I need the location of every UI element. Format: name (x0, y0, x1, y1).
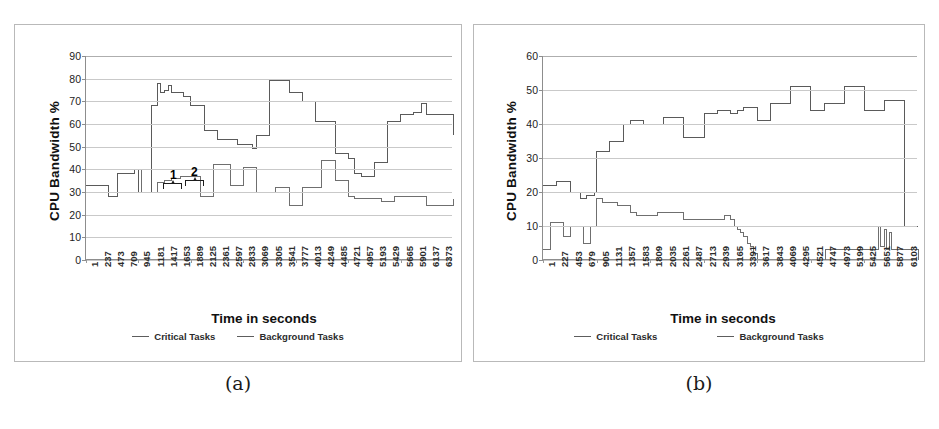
chart-panel-b: CPU Bandwidth % 6050403020100 1227453679… (473, 24, 925, 362)
legend-line-icon (237, 336, 254, 337)
x-tick-label: 6373 (443, 246, 454, 267)
x-tick-label: 2939 (720, 246, 731, 267)
x-tick-label: 237 (102, 251, 113, 267)
x-axis-title-a: Time in seconds (41, 311, 487, 326)
x-tick-label: 5199 (854, 246, 865, 267)
y-tick-mark (82, 192, 86, 193)
x-tick-label: 227 (559, 251, 570, 267)
gridline (86, 56, 452, 57)
gridline (543, 226, 917, 227)
y-tick-mark (82, 147, 86, 148)
gridline (543, 56, 917, 57)
x-tick-label: 1357 (626, 246, 637, 267)
legend-line-icon (574, 336, 591, 337)
x-tick-label: 2035 (667, 246, 678, 267)
legend-item-background-tasks-a: Background Tasks (237, 331, 343, 342)
annotation-brace-2 (185, 180, 204, 186)
x-tick-label: 2361 (220, 246, 231, 267)
y-tick-mark (539, 192, 543, 193)
legend-label-critical-tasks-a: Critical Tasks (154, 331, 215, 342)
legend-b: Critical Tasks Background Tasks (474, 331, 924, 342)
y-tick-mark (82, 101, 86, 102)
x-tick-label: 2261 (680, 246, 691, 267)
x-tick-label: 4013 (312, 246, 323, 267)
y-tick-mark (82, 169, 86, 170)
y-tick-label: 0 (532, 255, 538, 266)
gridline (86, 124, 452, 125)
plot-area-a: CPU Bandwidth % 9080706050403020100 1237… (15, 25, 461, 361)
y-tick-label: 60 (526, 51, 538, 62)
figure-two-panel-cpu-bandwidth: CPU Bandwidth % 9080706050403020100 1237… (0, 0, 939, 429)
gridline (86, 79, 452, 80)
legend-line-icon (132, 336, 149, 337)
series-lines-a (86, 56, 453, 260)
x-tick-label: 1809 (653, 246, 664, 267)
y-tick-mark (82, 124, 86, 125)
x-tick-label: 3617 (760, 246, 771, 267)
x-tick-label: 2713 (707, 246, 718, 267)
y-tick-label: 90 (69, 51, 81, 62)
figure-caption-a: (a) (14, 372, 462, 394)
x-tick-label: 4747 (827, 246, 838, 267)
y-tick-label: 30 (69, 187, 81, 198)
x-tick-label: 5193 (377, 246, 388, 267)
gridline (86, 215, 452, 216)
legend-line-icon (717, 336, 734, 337)
plot-box-a (85, 56, 452, 260)
gridline (543, 158, 917, 159)
gridline (543, 124, 917, 125)
x-tick-label: 1889 (194, 246, 205, 267)
x-tick-label: 4973 (841, 246, 852, 267)
x-tick-label: 473 (115, 251, 126, 267)
y-tick-mark (539, 226, 543, 227)
x-tick-mark (86, 259, 87, 263)
legend-item-background-tasks-b: Background Tasks (717, 331, 823, 342)
x-tick-label: 5901 (417, 246, 428, 267)
x-axis-title-b: Time in seconds (498, 311, 939, 326)
y-tick-mark (539, 158, 543, 159)
gridline (86, 169, 452, 170)
y-tick-mark (82, 215, 86, 216)
legend-item-critical-tasks-a: Critical Tasks (132, 331, 215, 342)
x-tick-label: 6137 (430, 246, 441, 267)
x-tick-label: 1 (546, 262, 557, 267)
figure-caption-b: (b) (473, 372, 925, 394)
legend-item-critical-tasks-b: Critical Tasks (574, 331, 657, 342)
x-tick-label: 1131 (613, 246, 624, 267)
x-tick-label: 905 (600, 251, 611, 267)
y-tick-label: 50 (526, 85, 538, 96)
x-tick-label: 2125 (207, 246, 218, 267)
x-tick-label: 4957 (364, 246, 375, 267)
y-tick-label: 40 (526, 119, 538, 130)
y-tick-label: 40 (69, 164, 81, 175)
x-tick-label: 5665 (404, 246, 415, 267)
y-tick-mark (539, 124, 543, 125)
x-tick-label: 4521 (814, 246, 825, 267)
y-tick-label: 20 (69, 209, 81, 220)
y-tick-label: 10 (69, 232, 81, 243)
x-tick-label: 5651 (881, 246, 892, 267)
x-tick-label: 3391 (747, 246, 758, 267)
gridline (86, 147, 452, 148)
gridline (86, 237, 452, 238)
x-tick-label: 5877 (894, 246, 905, 267)
x-tick-label: 1 (89, 262, 100, 267)
y-tick-label: 10 (526, 221, 538, 232)
y-tick-label: 50 (69, 141, 81, 152)
x-tick-label: 4485 (338, 246, 349, 267)
x-tick-mark (543, 259, 544, 263)
series-line-critical-tasks (86, 160, 453, 205)
x-tick-label: 5425 (867, 246, 878, 267)
x-tick-label: 4249 (325, 246, 336, 267)
gridline (543, 192, 917, 193)
y-tick-mark (82, 56, 86, 57)
y-tick-label: 60 (69, 119, 81, 130)
x-tick-label: 453 (573, 251, 584, 267)
annotation-brace-1 (163, 183, 182, 189)
x-tick-label: 5429 (390, 246, 401, 267)
plot-box-b (542, 56, 917, 260)
x-tick-label: 1653 (181, 246, 192, 267)
legend-label-background-tasks-a: Background Tasks (259, 331, 343, 342)
x-axis-ticks-a: 1237473709945118114171653188921252361259… (85, 265, 531, 315)
x-tick-label: 3305 (273, 246, 284, 267)
